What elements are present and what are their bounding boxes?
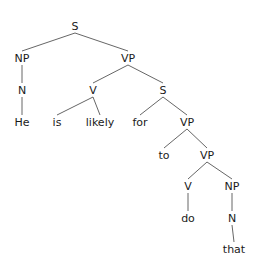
tree-edges [0, 0, 256, 269]
tree-node-likely: likely [86, 117, 114, 128]
tree-node-s2: S [160, 85, 167, 96]
tree-node-vp2: VP [180, 117, 194, 128]
tree-edge [164, 129, 187, 148]
tree-edge [75, 33, 128, 51]
tree-node-np2: NP [225, 181, 240, 192]
tree-edge [22, 33, 75, 51]
tree-node-that: that [223, 244, 245, 255]
tree-edge [232, 225, 234, 242]
tree-edge [140, 97, 163, 115]
tree-edge [57, 97, 93, 115]
tree-node-for: for [132, 117, 147, 128]
tree-node-np1: NP [15, 53, 30, 64]
tree-edge [93, 97, 100, 115]
tree-node-is: is [53, 117, 62, 128]
tree-node-n2: N [228, 213, 236, 224]
tree-edge [188, 162, 207, 179]
tree-edge [163, 97, 187, 115]
tree-node-to: to [158, 150, 169, 161]
tree-node-do: do [181, 213, 195, 224]
tree-node-n1: N [18, 85, 26, 96]
tree-edge [93, 65, 128, 83]
tree-node-s1: S [72, 21, 79, 32]
tree-edge [187, 129, 207, 148]
tree-node-v2: V [184, 181, 192, 192]
tree-node-vp3: VP [200, 150, 214, 161]
tree-node-he: He [14, 117, 29, 128]
tree-node-vp1: VP [121, 53, 135, 64]
tree-node-v1: V [89, 85, 97, 96]
tree-edge [207, 162, 232, 179]
tree-edge [128, 65, 163, 83]
